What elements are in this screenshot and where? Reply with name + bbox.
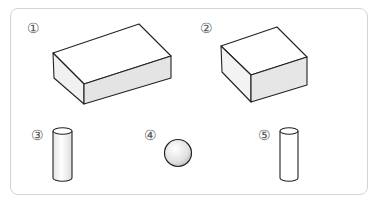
cylinder-3-icon bbox=[53, 128, 72, 181]
sphere-4-icon bbox=[165, 140, 192, 167]
prism-2-icon bbox=[221, 27, 307, 102]
cylinder-5-icon bbox=[280, 128, 298, 181]
prism-1-icon bbox=[53, 24, 171, 104]
shapes-canvas bbox=[0, 0, 379, 212]
